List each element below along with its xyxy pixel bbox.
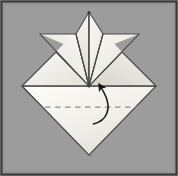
fan-apex-dot <box>88 11 91 14</box>
center-convergence-point <box>87 84 90 87</box>
origami-figure <box>0 0 178 176</box>
origami-diagram-page <box>0 0 178 176</box>
